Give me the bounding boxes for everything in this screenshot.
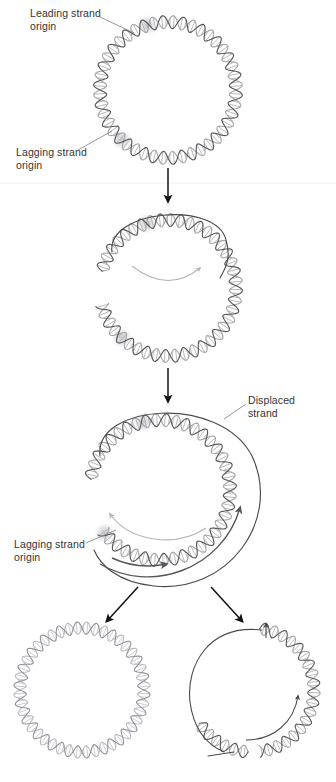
stage-3-rolling-circle	[85, 410, 260, 587]
stage-1-closed-circular-duplex	[94, 13, 243, 164]
label-displaced-strand: Displaced strand	[248, 394, 295, 419]
stage-4-product-circular-duplex	[14, 622, 150, 758]
rolling-circle-replication-figure	[0, 0, 336, 782]
leader-line-leading-strand-origin	[100, 17, 134, 33]
leader-line-displaced-strand	[224, 404, 246, 419]
label-lagging-strand-origin-stage1: Lagging strand origin	[16, 146, 87, 171]
arrow-stage3-to-product-left	[107, 587, 138, 621]
stage-2-displacement-begins	[96, 211, 243, 362]
stage-4-product-partially-replicated	[190, 623, 321, 757]
label-lagging-strand-origin-stage3: Lagging strand origin	[14, 538, 85, 563]
arrow-stage3-to-product-right	[211, 587, 242, 621]
label-leading-strand-origin: Leading strand origin	[30, 7, 101, 32]
